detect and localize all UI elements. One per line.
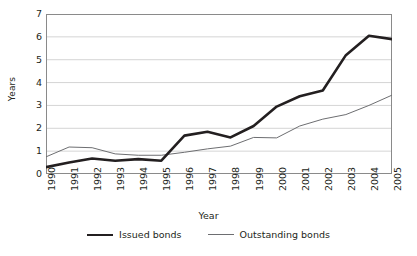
y-tick-label: 6: [26, 32, 42, 42]
y-tick-label: 4: [26, 78, 42, 88]
y-axis-title: Years: [7, 54, 17, 124]
y-tick-label: 2: [26, 123, 42, 133]
legend-item-label: Outstanding bonds: [240, 229, 330, 240]
x-tick-label: 2005: [372, 176, 412, 190]
chart-legend: Issued bondsOutstanding bonds: [0, 229, 417, 240]
y-tick-label: 1: [26, 146, 42, 156]
x-axis-title: Year: [0, 210, 417, 221]
legend-item[interactable]: Outstanding bonds: [208, 229, 330, 240]
plot-area: [46, 14, 392, 174]
x-tick-label-text: 2005: [392, 167, 403, 191]
y-tick-label: 3: [26, 100, 42, 110]
legend-line-swatch-icon: [87, 234, 113, 236]
legend-line-swatch-icon: [208, 234, 234, 235]
series-line-outstanding-bonds: [46, 95, 392, 157]
line-chart: Years 76543210 1990199119921993199419951…: [0, 0, 417, 256]
plot-svg: [46, 14, 392, 174]
y-tick-label: 7: [26, 9, 42, 19]
legend-item-label: Issued bonds: [119, 229, 181, 240]
y-tick-label: 5: [26, 55, 42, 65]
legend-item[interactable]: Issued bonds: [87, 229, 181, 240]
